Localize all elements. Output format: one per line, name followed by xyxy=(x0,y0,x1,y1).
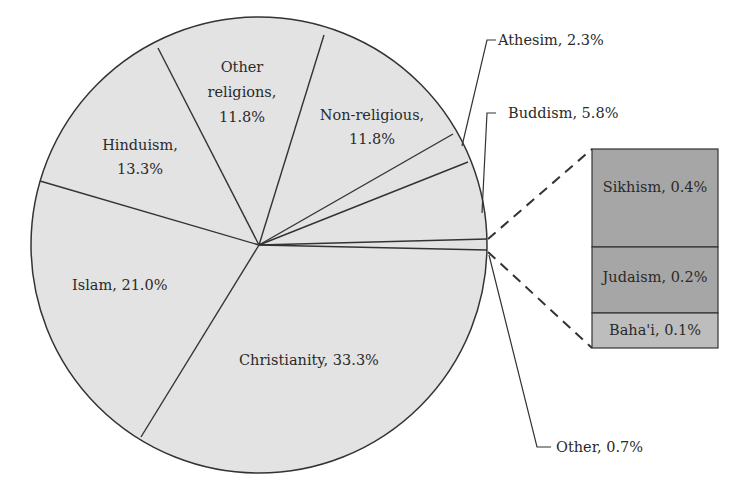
label-non-religious-2: 11.8% xyxy=(349,131,395,147)
label-buddism: Buddism, 5.8% xyxy=(508,105,618,121)
breakout-connector-bottom xyxy=(488,252,592,348)
label-islam: Islam, 21.0% xyxy=(72,277,167,293)
label-other-religions-3: 11.8% xyxy=(219,109,265,125)
label-judaism: Judaism, 0.2% xyxy=(601,269,708,285)
label-hinduism-1: Hinduism, xyxy=(102,137,178,153)
label-christianity: Christianity, 33.3% xyxy=(239,352,379,368)
label-sikhism: Sikhism, 0.4% xyxy=(603,179,708,195)
label-non-religious-1: Non-religious, xyxy=(320,107,424,123)
label-other-religions-2: religions, xyxy=(208,84,277,100)
label-other: Other, 0.7% xyxy=(556,439,643,455)
label-other-religions-1: Other xyxy=(221,59,264,75)
athesim-leader xyxy=(462,40,496,146)
other-leader xyxy=(489,255,551,447)
buddism-leader xyxy=(482,113,496,213)
label-bahai: Baha'i, 0.1% xyxy=(609,322,701,338)
label-athesim: Athesim, 2.3% xyxy=(497,32,604,48)
breakout-connector-top xyxy=(488,149,592,239)
breakout-sikhism xyxy=(592,149,718,247)
label-hinduism-2: 13.3% xyxy=(117,161,163,177)
pie-chart: Other religions, 11.8% Hinduism, 13.3% N… xyxy=(0,0,745,494)
